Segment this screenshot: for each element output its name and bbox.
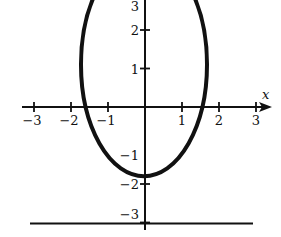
y-tick-label: 3 <box>131 0 139 14</box>
y-tick-label: −3 <box>120 207 139 222</box>
y-tick-label: −2 <box>120 177 139 192</box>
chart-plot-area: −3−2−1123321−1−2−3 x <box>0 0 281 237</box>
x-tick-label: 3 <box>252 113 260 128</box>
tick-labels: −3−2−1123321−1−2−3 <box>22 0 260 222</box>
x-tick-label: 1 <box>178 113 186 128</box>
x-tick-label: 2 <box>215 113 223 128</box>
x-axis-label: x <box>262 87 270 102</box>
x-tick-label: −2 <box>59 113 78 128</box>
x-tick-label: −3 <box>22 113 41 128</box>
x-tick-label: −1 <box>96 113 115 128</box>
y-tick-label: −1 <box>120 148 139 163</box>
y-tick-label: 2 <box>131 23 139 38</box>
y-tick-label: 1 <box>131 62 139 77</box>
